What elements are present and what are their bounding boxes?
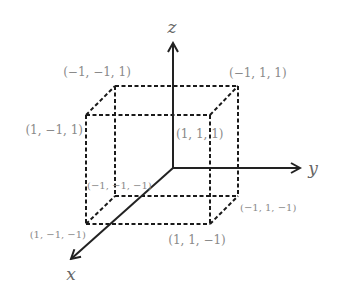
- cube-axes-diagram: z y x (−1, −1, 1) (−1, 1, 1) (1, −1, 1) …: [0, 0, 340, 298]
- vertex-label-p1p1p1: (1, 1, 1): [176, 127, 224, 141]
- vertex-label-p1n1n1: (1, −1, −1): [30, 229, 86, 240]
- edge-connect-top-right: [210, 86, 238, 115]
- x-axis-label: x: [66, 264, 76, 284]
- z-axis-label: z: [167, 17, 178, 37]
- y-axis-label: y: [307, 158, 318, 178]
- vertex-label-n1p1n1: (−1, 1, −1): [240, 202, 296, 213]
- vertex-label-p1p1n1: (1, 1, −1): [168, 233, 226, 247]
- vertex-label-p1n1p1: (1, −1, 1): [25, 123, 83, 137]
- edge-connect-top-left: [86, 86, 115, 115]
- edge-connect-bottom-left: [86, 196, 115, 224]
- cube-edges: [86, 86, 238, 224]
- vertex-label-n1p1p1: (−1, 1, 1): [229, 66, 287, 80]
- edge-connect-bottom-right: [210, 196, 238, 224]
- vertex-label-n1n1n1: (−1, −1, −1): [87, 180, 152, 191]
- vertex-label-n1n1p1: (−1, −1, 1): [63, 65, 131, 79]
